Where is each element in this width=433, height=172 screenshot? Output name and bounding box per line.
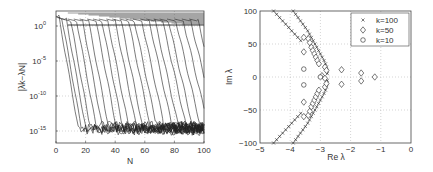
legend-label: k=10 xyxy=(376,36,394,45)
x-tick-label: 40 xyxy=(111,146,120,155)
x-tick-label: 100 xyxy=(197,146,211,155)
x-tick-label: 20 xyxy=(81,146,90,155)
figure: 020406080100 10010-510-1010-15 N |λk−λN|… xyxy=(0,0,433,172)
legend-label: k=50 xyxy=(376,26,394,35)
legend-item xyxy=(361,38,366,43)
x-axis-label: N xyxy=(127,156,133,166)
y-axis-label: |λk−λN| xyxy=(17,63,27,91)
x-tick-label: −4 xyxy=(286,145,296,154)
x-tick-label: −3 xyxy=(316,145,326,154)
y-tick-label: 10-15 xyxy=(29,125,46,136)
y-tick-label: 100 xyxy=(244,7,258,16)
y-axis-label: Im λ xyxy=(224,68,234,85)
y-tick-label: −50 xyxy=(243,106,257,115)
eigenvalue-plot: k=100k=50k=10 −5−4−3−2−10 −100−50050100 … xyxy=(224,7,414,162)
x-axis-label: Re λ xyxy=(327,152,345,162)
y-tick-label: −100 xyxy=(239,139,258,148)
y-tick-labels: −100−50050100 xyxy=(239,7,258,148)
x-tick-label: −2 xyxy=(346,145,356,154)
x-tick-label: −1 xyxy=(376,145,386,154)
x-tick-label: 60 xyxy=(140,146,149,155)
y-tick-label: 50 xyxy=(248,40,257,49)
y-tick-labels: 10010-510-1010-15 xyxy=(29,20,58,136)
y-tick-label: 0 xyxy=(253,73,258,82)
y-tick-label: 100 xyxy=(34,20,46,31)
x-tick-label: 0 xyxy=(54,146,59,155)
convergence-plot: 020406080100 10010-510-1010-15 N |λk−λN| xyxy=(17,11,211,166)
y-tick-label: 10-10 xyxy=(29,90,46,101)
y-tick-label: 10-5 xyxy=(32,55,46,66)
legend: k=100k=50k=10 xyxy=(351,13,409,46)
x-tick-label: 80 xyxy=(170,146,179,155)
x-tick-label: 0 xyxy=(409,145,414,154)
legend-label: k=100 xyxy=(376,16,399,25)
